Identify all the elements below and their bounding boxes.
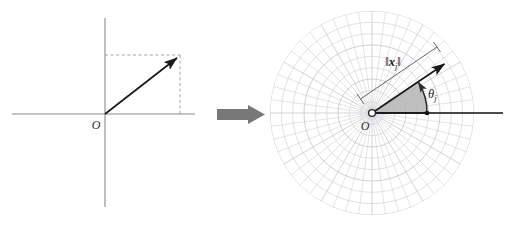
origin-label-left: O	[92, 118, 101, 132]
figure-canvas: O O ‖xj‖ θj	[0, 0, 511, 225]
polar-origin-marker	[369, 110, 376, 117]
norm-label: ‖xj‖	[385, 55, 401, 71]
origin-label-right: O	[361, 119, 370, 133]
